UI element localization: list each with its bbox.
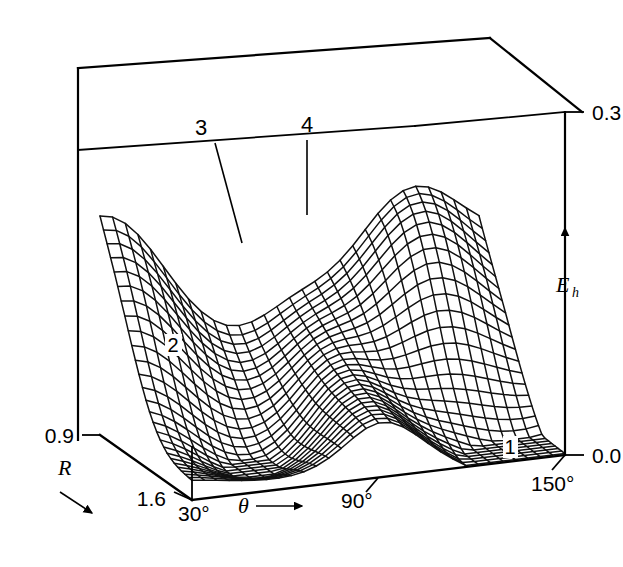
axis-label-E-min: 0.0: [592, 444, 621, 467]
surface-plot-svg: 0.3 0.0 0.9 1.6 30° 90° 150° E h R θ 3: [0, 0, 623, 567]
axis-title-depth: R: [57, 455, 92, 513]
axis-name-R: R: [57, 455, 72, 480]
annotation-4: 4: [301, 112, 313, 215]
point-label-2: 2: [167, 334, 178, 356]
axis-name-E: E: [555, 272, 570, 297]
figure-root: 0.3 0.0 0.9 1.6 30° 90° 150° E h R θ 3: [0, 0, 623, 567]
point-label-3: 3: [195, 115, 207, 140]
down-right-arrow-icon: [60, 492, 92, 513]
axis-label-E-max: 0.3: [592, 101, 621, 124]
axis-title-vertical: E h: [555, 228, 579, 300]
axis-label-R-max: 1.6: [137, 487, 166, 510]
axis-label-R-min: 0.9: [45, 424, 74, 447]
axis-name-E-subscript: h: [572, 285, 579, 300]
axis-title-horizontal: θ: [238, 493, 302, 518]
axis-label-theta-max: 150°: [531, 472, 574, 495]
annotation-2: 2: [165, 334, 182, 356]
leader-line-3: [215, 143, 242, 243]
annotation-3: 3: [195, 115, 242, 243]
point-label-4: 4: [301, 112, 313, 137]
point-label-1: 1: [504, 436, 515, 458]
axis-label-theta-min: 30°: [178, 502, 210, 525]
axis-name-theta: θ: [238, 493, 249, 518]
axis-label-theta-mid: 90°: [341, 489, 373, 512]
annotation-1: 1: [503, 436, 518, 458]
